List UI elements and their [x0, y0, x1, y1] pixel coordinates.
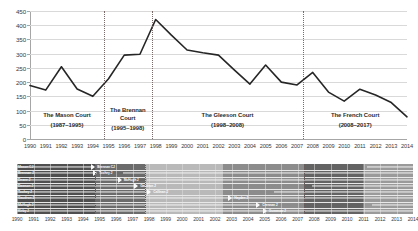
y-tick-label: 100 — [16, 107, 26, 114]
era-years: (1998–2008) — [152, 121, 304, 129]
timeline-successor-label: Brennan CJ — [97, 165, 115, 169]
x-tick-label: 1991 — [40, 143, 52, 149]
timeline-bar-secondary — [312, 185, 413, 186]
timeline-successor-label: McHugh J — [124, 178, 139, 182]
timeline-x-tick-label: 2001 — [193, 216, 204, 222]
timeline-justice-name: Brennan J — [18, 171, 34, 175]
timeline-x-tick-label: 1999 — [160, 216, 171, 222]
timeline-row-separator — [17, 183, 413, 184]
era-years: (1987–1995) — [30, 121, 104, 129]
timeline-x-tick-label: 1991 — [28, 216, 39, 222]
timeline-row-separator — [17, 170, 413, 171]
y-tick-label: 450 — [16, 8, 26, 15]
timeline-justice-name: Gaudron J — [18, 196, 34, 200]
x-tick-label: 2010 — [338, 143, 350, 149]
x-tick-label: 2000 — [181, 143, 193, 149]
y-tick-label: 300 — [16, 50, 26, 57]
timeline-justice-name: Dawson J — [18, 184, 33, 188]
x-tick-label: 2006 — [275, 143, 287, 149]
timeline-row-separator — [17, 177, 413, 178]
x-tick-label: 2013 — [385, 143, 397, 149]
timeline-justice-name: Toohey J — [18, 190, 32, 194]
timeline-x-axis-labels: 1990199119921993199419951996199719981999… — [17, 216, 413, 228]
timeline-justice-name: McHugh J — [18, 203, 33, 207]
era-name: The Mason Court — [43, 112, 90, 118]
timeline-bar-secondary — [274, 192, 413, 193]
era-name: The Brennan Court — [110, 107, 145, 121]
line-chart: 050100150200250300350400450 The Mason Co… — [0, 0, 417, 158]
timeline-bar — [17, 185, 134, 186]
x-axis-labels: 1990199119921993199419951996199719981999… — [30, 141, 407, 155]
era-label-the-mason-court: The Mason Court(1987–1995) — [30, 111, 104, 129]
x-tick-label: 1996 — [118, 143, 130, 149]
timeline-x-tick-label: 2014 — [408, 216, 418, 222]
timeline-divider-3 — [304, 164, 305, 214]
timeline-bar — [17, 204, 256, 205]
era-label-the-french-court: The French Court(2008–2017) — [303, 111, 407, 129]
timeline-divider-1 — [95, 164, 96, 214]
timeline-successor-label: Toohey J — [99, 171, 112, 175]
timeline-x-tick-label: 1996 — [111, 216, 122, 222]
y-tick-label: 150 — [16, 93, 26, 100]
y-tick-label: 250 — [16, 64, 26, 71]
y-tick-label: 400 — [16, 22, 26, 29]
x-tick-label: 1993 — [71, 143, 83, 149]
x-tick-label: 1997 — [134, 143, 146, 149]
era-label-the-gleeson-court: The Gleeson Court(1998–2008) — [152, 111, 304, 129]
x-tick-label: 2012 — [370, 143, 382, 149]
timeline-arrow — [118, 177, 122, 183]
justices-timeline: Mason CJBrennan CJBrennan JToohey JDeane… — [17, 164, 413, 214]
timeline-x-tick-label: 2008 — [309, 216, 320, 222]
x-tick-label: 2003 — [228, 143, 240, 149]
era-label-the-brennan-court: The Brennan Court(1995–1998) — [104, 106, 152, 132]
timeline-x-tick-label: 1990 — [12, 216, 23, 222]
x-tick-label: 2008 — [307, 143, 319, 149]
x-tick-label: 1998 — [150, 143, 162, 149]
timeline-successor-label: Callinan J — [153, 190, 168, 194]
timeline-x-tick-label: 2000 — [177, 216, 188, 222]
timeline-bar-secondary — [123, 173, 413, 174]
timeline-bar-secondary — [367, 167, 413, 168]
era-years: (1995–1998) — [104, 124, 152, 132]
timeline-row-separator — [17, 195, 413, 196]
x-tick-label: 2011 — [354, 143, 365, 149]
timeline-row-separator — [17, 202, 413, 203]
timeline-row-separator — [17, 189, 413, 190]
x-tick-label: 2005 — [260, 143, 272, 149]
era-name: The French Court — [331, 112, 379, 118]
x-tick-label: 2002 — [213, 143, 225, 149]
timeline-justice-name: Kirby J — [18, 209, 29, 213]
timeline-justice-name: Mason CJ — [18, 165, 33, 169]
gridline — [30, 139, 407, 140]
x-tick-label: 2007 — [291, 143, 303, 149]
timeline-x-tick-label: 2002 — [210, 216, 221, 222]
y-tick-label: 200 — [16, 79, 26, 86]
timeline-bar-secondary — [263, 210, 413, 211]
timeline-x-tick-label: 1992 — [45, 216, 56, 222]
x-tick-label: 2009 — [323, 143, 335, 149]
era-name: The Gleeson Court — [202, 112, 254, 118]
x-tick-label: 1992 — [55, 143, 67, 149]
timeline-bar-secondary — [147, 179, 413, 180]
timeline-bar — [17, 198, 228, 199]
era-years: (2008–2017) — [303, 121, 407, 129]
timeline-x-tick-label: 1998 — [144, 216, 155, 222]
timeline-x-tick-label: 2010 — [342, 216, 353, 222]
timeline-x-tick-label: 1993 — [61, 216, 72, 222]
timeline-bar — [17, 179, 118, 180]
timeline-arrow — [256, 202, 260, 208]
timeline-x-tick-label: 2004 — [243, 216, 254, 222]
timeline-x-tick-label: 1995 — [94, 216, 105, 222]
timeline-x-tick-label: 1997 — [127, 216, 138, 222]
timeline-successor-label: Gaudron J — [140, 184, 156, 188]
timeline-divider-2 — [145, 164, 146, 214]
x-tick-label: 2001 — [197, 143, 209, 149]
y-tick-mark — [27, 139, 30, 140]
x-tick-label: 2014 — [401, 143, 413, 149]
timeline-x-tick-label: 1994 — [78, 216, 89, 222]
y-tick-label: 0 — [23, 136, 26, 143]
y-tick-label: 350 — [16, 36, 26, 43]
timeline-x-tick-label: 2009 — [325, 216, 336, 222]
y-tick-label: 50 — [19, 121, 26, 128]
x-tick-label: 2004 — [244, 143, 256, 149]
